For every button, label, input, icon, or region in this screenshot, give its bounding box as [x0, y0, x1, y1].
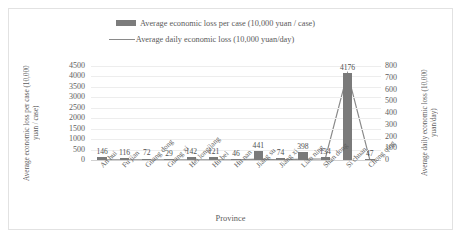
legend-item-line: Average daily economic loss (10,000 yuan…	[9, 31, 452, 47]
chart-legend: Average economic loss per case (10,000 y…	[9, 15, 452, 47]
y-axis-left-tick: 500	[43, 146, 85, 154]
y-axis-right-tick: 700	[385, 74, 397, 82]
y-axis-right-tick: 300	[385, 121, 397, 129]
y-axis-left-tick: 3500	[43, 83, 85, 91]
y-axis-right-tick: 0	[385, 156, 389, 164]
legend-item-bar: Average economic loss per case (10,000 y…	[9, 15, 452, 31]
y-axis-left-title: Average economic loss per case (10,000 y…	[23, 59, 43, 187]
y-axis-left-tick: 3000	[43, 93, 85, 101]
y-axis-right-tick: 800	[385, 62, 397, 70]
bar-data-label: 398	[297, 142, 308, 151]
gridline	[91, 76, 381, 77]
gridline	[91, 139, 381, 140]
y-axis-right-tick: 400	[385, 109, 397, 117]
x-axis-title: Province	[9, 214, 452, 223]
y-axis-left-tick: 4000	[43, 72, 85, 80]
y-axis-left-tick: 4500	[43, 62, 85, 70]
legend-line-swatch-icon	[109, 39, 135, 40]
gridline	[91, 87, 381, 88]
legend-bar-label: Average economic loss per case (10,000 y…	[140, 19, 315, 28]
y-axis-left-tick: 2000	[43, 114, 85, 122]
y-axis-left-tick: 1000	[43, 135, 85, 143]
y-axis-right-tick: 500	[385, 97, 397, 105]
gridline	[91, 97, 381, 98]
y-axis-right-title: Average daily economic loss (10,000 yuan…	[421, 57, 441, 189]
legend-bar-swatch-icon	[116, 20, 136, 26]
bar-data-label: 4176	[340, 63, 355, 72]
y-axis-left-tick: 2500	[43, 104, 85, 112]
gridline	[91, 129, 381, 130]
gridline	[91, 108, 381, 109]
x-axis-labels: An huiFu jianGuang dongGuang xiHei longj…	[91, 161, 381, 213]
chart-container: Average economic loss per case (10,000 y…	[8, 8, 453, 230]
y-axis-left-tick: 0	[43, 156, 85, 164]
y-axis-left-tick: 1500	[43, 125, 85, 133]
bar-data-label: 441	[253, 141, 264, 150]
gridline	[91, 118, 381, 119]
legend-line-label: Average daily economic loss (10,000 yuan…	[136, 35, 294, 44]
gridline	[91, 66, 381, 67]
y-axis-left-ticks: 450040003500300025002000150010005000	[43, 66, 88, 160]
y-axis-right-tick: 600	[385, 86, 397, 94]
